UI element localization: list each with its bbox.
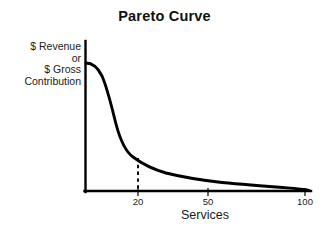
pareto-curve-line	[86, 63, 309, 190]
x-tick-label-100: 100	[297, 196, 313, 207]
x-tick-label-50: 50	[203, 196, 214, 207]
pareto-curve-chart: Pareto Curve $ Revenue or $ Gross Contri…	[0, 0, 329, 235]
x-axis-title: Services	[181, 208, 229, 222]
x-tick-label-20: 20	[133, 196, 144, 207]
plot-area	[0, 0, 329, 235]
